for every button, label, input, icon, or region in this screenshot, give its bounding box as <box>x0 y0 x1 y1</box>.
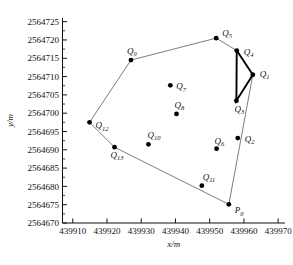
data-point-q8 <box>174 112 179 117</box>
plot-canvas: 2564670256467525646802564685256469025646… <box>0 0 292 265</box>
y-axis-tick-label: 2564680 <box>28 182 60 192</box>
x-axis-tick-label: 439920 <box>94 226 122 236</box>
data-point-q7 <box>168 83 173 88</box>
point-label-q2: Q2 <box>245 134 256 145</box>
point-label-subscript: 9 <box>133 50 137 57</box>
point-label-q8: Q8 <box>174 100 185 111</box>
y-axis-tick-label: 2564705 <box>28 90 60 100</box>
data-point-q12 <box>87 120 92 125</box>
point-label-subscript: 1 <box>266 73 269 80</box>
point-label-subscript: 7 <box>183 86 187 93</box>
point-label-q11: Q11 <box>203 172 216 183</box>
data-point-q6 <box>214 146 219 151</box>
y-axis-tick-label: 2564720 <box>28 35 60 45</box>
polygon-boundary-layer <box>90 38 253 204</box>
point-label-subscript: 6 <box>221 140 225 147</box>
point-label-subscript: 4 <box>250 51 254 58</box>
x-axis-tick-label: 439910 <box>59 226 87 236</box>
polygon-boundary <box>90 38 253 204</box>
point-label-subscript: 0 <box>240 210 244 217</box>
point-label-p0: P0 <box>234 205 245 216</box>
point-label-q7: Q7 <box>176 81 187 92</box>
point-label-q10: Q10 <box>147 130 161 141</box>
point-label-q4: Q4 <box>244 47 255 58</box>
point-label-q5: Q5 <box>222 28 233 39</box>
y-axis-title: y/m <box>5 114 15 128</box>
point-label-q1: Q1 <box>260 69 270 80</box>
scatter-plot-figure: 2564670256467525646802564685256469025646… <box>0 0 292 265</box>
x-axis-tick-label: 439970 <box>265 226 292 236</box>
point-label-subscript: 8 <box>181 104 185 111</box>
point-label-subscript: 11 <box>209 176 215 183</box>
point-label-q13: Q13 <box>111 150 125 161</box>
data-point-q3 <box>234 98 239 103</box>
data-point-q11 <box>199 183 204 188</box>
triangle-layer <box>236 51 252 101</box>
data-point-q1 <box>250 72 255 77</box>
point-label-q9: Q9 <box>127 46 138 57</box>
data-point-q2 <box>235 136 240 141</box>
data-point-q5 <box>214 36 219 41</box>
point-labels-layer: P0Q1Q2Q3Q4Q5Q6Q7Q8Q9Q10Q11Q12Q13 <box>96 28 270 216</box>
x-axis-tick-label: 439960 <box>230 226 258 236</box>
point-label-subscript: 10 <box>154 134 161 141</box>
highlight-triangle <box>236 51 252 101</box>
x-axis-tick-label: 439930 <box>128 226 156 236</box>
x-axis-tick-label: 439940 <box>162 226 190 236</box>
data-point-q4 <box>234 48 239 53</box>
y-axis-tick-label: 2564685 <box>28 163 60 173</box>
y-axis-tick-label: 2564675 <box>28 200 60 210</box>
x-axis-title: x/m <box>166 239 180 249</box>
point-label-subscript: 2 <box>251 138 255 145</box>
y-axis-tick-label: 2564710 <box>28 72 60 82</box>
y-axis-tick-label: 2564695 <box>28 127 60 137</box>
point-label-subscript: 5 <box>229 32 233 39</box>
tick-labels-layer: 2564670256467525646802564685256469025646… <box>28 17 293 236</box>
data-point-q13 <box>112 145 117 150</box>
x-axis-tick-label: 439950 <box>196 226 224 236</box>
y-axis-tick-label: 2564690 <box>28 145 60 155</box>
y-axis-tick-label: 2564715 <box>28 53 60 63</box>
point-label-q6: Q6 <box>215 136 226 147</box>
point-label-subscript: 13 <box>117 154 124 161</box>
data-point-q9 <box>129 58 134 63</box>
point-label-subscript: 12 <box>102 125 109 132</box>
data-point-p0 <box>226 202 231 207</box>
data-points-layer <box>87 36 255 207</box>
point-label-q3: Q3 <box>234 104 245 115</box>
point-label-q12: Q12 <box>96 120 110 131</box>
y-axis-tick-label: 2564725 <box>28 17 60 27</box>
y-axis-tick-label: 2564700 <box>28 108 60 118</box>
y-axis-tick-label: 2564670 <box>28 218 60 228</box>
data-point-q10 <box>146 142 151 147</box>
point-label-subscript: 3 <box>240 108 245 115</box>
